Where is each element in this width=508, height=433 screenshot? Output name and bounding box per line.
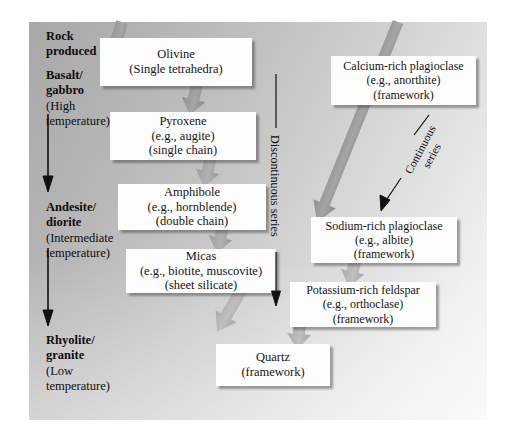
mineral-box-pyroxene: Pyroxene (e.g., augite) (single chain) bbox=[110, 112, 256, 160]
stage-line2: granite bbox=[46, 348, 110, 363]
mineral-example: (e.g., hornblende) bbox=[148, 200, 237, 215]
stage-line3: (Low bbox=[46, 364, 110, 379]
stage-line4: temperature) bbox=[46, 246, 113, 261]
mineral-box-olivine: Olivine (Single tetrahedra) bbox=[100, 38, 252, 86]
mineral-box-potassium-rich-feldspar: Potassium-rich feldspar (e.g., orthoclas… bbox=[290, 282, 436, 327]
mineral-box-calcium-rich-plagioclase: Calcium-rich plagioclase (e.g., anorthit… bbox=[331, 56, 476, 105]
mineral-name: Amphibole bbox=[164, 185, 220, 200]
discontinuous-series-label: Discontinuous series bbox=[268, 135, 281, 237]
stage-label-andesite-diorite: Andesite/ diorite (Intermediate temperat… bbox=[46, 200, 113, 261]
mineral-name: Calcium-rich plagioclase bbox=[343, 59, 463, 73]
mineral-name: Pyroxene bbox=[159, 114, 206, 129]
rock-produced-heading: Rock produced bbox=[46, 29, 96, 60]
mineral-name: Sodium-rich plagioclase bbox=[326, 219, 443, 233]
mineral-name: Potassium-rich feldspar bbox=[306, 283, 420, 297]
stage-line2: diorite bbox=[46, 215, 113, 230]
stage-line4: temperature) bbox=[46, 114, 110, 129]
stage-line3: (Intermediate bbox=[46, 231, 113, 246]
mineral-example: (e.g., augite) bbox=[151, 129, 214, 144]
mineral-name: Micas bbox=[186, 249, 217, 264]
stage-line1: Andesite/ bbox=[46, 200, 113, 215]
figure-canvas: Olivine (Single tetrahedra) Pyroxene (e.… bbox=[0, 0, 508, 433]
mineral-example: (e.g., biotite, muscovite) bbox=[140, 264, 262, 279]
stage-line1: Basalt/ bbox=[46, 68, 110, 83]
mineral-structure: (double chain) bbox=[156, 214, 229, 229]
stage-line2: gabbro bbox=[46, 83, 110, 98]
mineral-structure: (framework) bbox=[373, 88, 434, 102]
stage-line4: temperature) bbox=[46, 379, 110, 394]
stage-label-basalt-gabbro: Basalt/ gabbro (High temperature) bbox=[46, 68, 110, 129]
mineral-example: (e.g., orthoclase) bbox=[323, 297, 404, 311]
rock-produced-line2: produced bbox=[46, 44, 96, 59]
mineral-box-amphibole: Amphibole (e.g., hornblende) (double cha… bbox=[118, 184, 266, 230]
mineral-structure: (framework) bbox=[354, 247, 415, 261]
mineral-name: Quartz bbox=[256, 350, 290, 365]
stage-line1: Rhyolite/ bbox=[46, 333, 110, 348]
mineral-box-quartz: Quartz (framework) bbox=[216, 344, 330, 386]
mineral-name: Olivine bbox=[157, 47, 195, 62]
mineral-example: (framework) bbox=[241, 365, 304, 380]
mineral-box-micas: Micas (e.g., biotite, muscovite) (sheet … bbox=[126, 249, 276, 293]
rock-produced-line1: Rock bbox=[46, 29, 96, 44]
mineral-structure: (sheet silicate) bbox=[165, 278, 238, 293]
mineral-example: (Single tetrahedra) bbox=[129, 62, 222, 77]
mineral-example: (e.g., albite) bbox=[355, 233, 413, 247]
stage-label-rhyolite-granite: Rhyolite/ granite (Low temperature) bbox=[46, 333, 110, 394]
mineral-structure: (framework) bbox=[333, 312, 394, 326]
stage-line3: (High bbox=[46, 99, 110, 114]
mineral-example: (e.g., anorthite) bbox=[367, 73, 441, 87]
mineral-box-sodium-rich-plagioclase: Sodium-rich plagioclase (e.g., albite) (… bbox=[311, 217, 457, 263]
mineral-structure: (single chain) bbox=[149, 143, 217, 158]
